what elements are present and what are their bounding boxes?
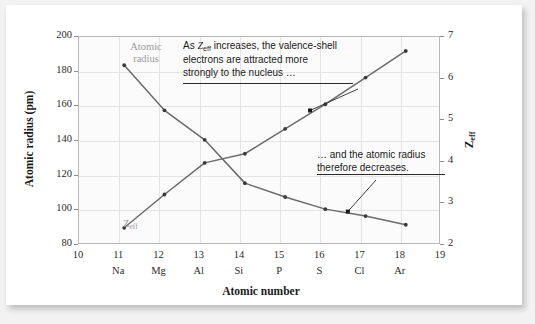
y-axis-right-tickmark [440, 202, 444, 203]
gridline-horizontal [79, 141, 439, 142]
y-axis-left-tickmark [74, 209, 78, 210]
y-axis-right-title-subscript: eff [468, 131, 477, 140]
annotation-1-line3: strongly to the nucleus … [183, 67, 296, 78]
y-axis-left-tickmark [74, 71, 78, 72]
y-axis-right-tick-label: 3 [448, 195, 482, 206]
annotation-1-subscript: eff [203, 44, 211, 53]
y-axis-right-tick-label: 5 [448, 112, 482, 123]
series-label-atomic-radius-line1: Atomic [130, 41, 162, 52]
gridline-horizontal [79, 210, 439, 211]
gridline-vertical [119, 37, 120, 243]
x-axis-tick-label: 13 [179, 249, 219, 260]
x-axis-element-label: Cl [340, 265, 380, 276]
y-axis-left-tickmark [74, 140, 78, 141]
y-axis-left-tick-label: 80 [38, 237, 72, 248]
x-axis-tick-label: 15 [259, 249, 299, 260]
y-axis-right-title-symbol: Z [463, 141, 475, 149]
y-axis-right-tick-label: 2 [448, 237, 482, 248]
annotation-radius-decreases: … and the atomic radiustherefore decreas… [317, 148, 462, 174]
x-axis-title: Atomic number [66, 285, 456, 297]
x-axis-element-label: P [259, 265, 299, 276]
series-label-atomic-radius-line2: radius [133, 53, 159, 64]
y-axis-left-tick-label: 200 [38, 29, 72, 40]
x-axis-tick-label: 11 [98, 249, 138, 260]
y-axis-left-title: Atomic radius (pm) [23, 54, 35, 224]
annotation-1-prefix: As [183, 40, 197, 51]
x-axis-element-label: Mg [138, 265, 178, 276]
figure-card: Atomic radius (pm) Zeff Atomic number 80… [6, 5, 522, 305]
y-axis-right-tickmark [440, 119, 444, 120]
gridline-horizontal [79, 106, 439, 107]
x-axis-tick-label: 17 [340, 249, 380, 260]
y-axis-left-tickmark [74, 105, 78, 106]
x-axis-tick-label: 16 [299, 249, 339, 260]
x-axis-element-label: Ar [380, 265, 420, 276]
y-axis-left-tickmark [74, 175, 78, 176]
y-axis-left-tick-label: 180 [38, 64, 72, 75]
annotation-2-line2: therefore decreases. [317, 162, 409, 173]
gridline-vertical [159, 37, 160, 243]
x-axis-element-label: S [299, 265, 339, 276]
y-axis-right-tickmark [440, 244, 444, 245]
y-axis-right-tick-label: 7 [448, 29, 482, 40]
annotation-1-underline [183, 83, 353, 84]
y-axis-left-tickmark [74, 36, 78, 37]
y-axis-left-tick-label: 140 [38, 133, 72, 144]
series-label-zeff: Zeff [123, 218, 163, 231]
x-axis-tick-label: 18 [380, 249, 420, 260]
y-axis-left-tick-label: 100 [38, 202, 72, 213]
x-axis-tick-label: 14 [219, 249, 259, 260]
x-axis-tick-label: 12 [138, 249, 178, 260]
annotation-1-line2: electrons are attracted more [183, 54, 308, 65]
y-axis-left-tick-label: 160 [38, 98, 72, 109]
y-axis-right-tick-label: 6 [448, 71, 482, 82]
gridline-horizontal [79, 176, 439, 177]
y-axis-left-tickmark [74, 244, 78, 245]
y-axis-right-tickmark [440, 78, 444, 79]
annotation-zeff-increases: As Zeff increases, the valence-shellelec… [183, 39, 378, 79]
annotation-2-underline [317, 174, 445, 175]
gridline-vertical [401, 37, 402, 243]
y-axis-left-tick-label: 120 [38, 168, 72, 179]
x-axis-tick-label: 19 [420, 249, 460, 260]
x-axis-element-label: Si [219, 265, 259, 276]
series-label-zeff-subscript: eff [129, 222, 137, 231]
series-label-atomic-radius: Atomicradius [118, 41, 174, 65]
x-axis-element-label: Al [179, 265, 219, 276]
annotation-2-line1: … and the atomic radius [317, 149, 425, 160]
y-axis-right-tickmark [440, 36, 444, 37]
x-axis-tick-label: 10 [58, 249, 98, 260]
x-axis-element-label: Na [98, 265, 138, 276]
annotation-1-line1-rest: increases, the valence-shell [211, 40, 337, 51]
